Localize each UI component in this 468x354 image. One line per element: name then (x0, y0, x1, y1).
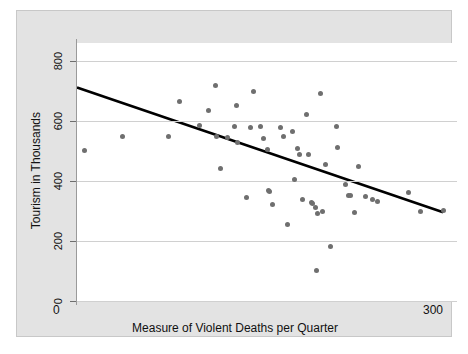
y-axis-tick-label: 400 (47, 164, 69, 198)
scatter-point (281, 134, 286, 139)
scatter-point (363, 194, 368, 199)
gridline (77, 241, 457, 242)
y-axis-tick-label-text: 0 (52, 298, 64, 304)
scatter-point (270, 202, 275, 207)
scatter-point (328, 244, 333, 249)
y-axis-tick (70, 241, 76, 242)
trendline (77, 43, 457, 301)
scatter-point (235, 140, 240, 145)
scatter-point (251, 89, 256, 94)
scatter-point (356, 164, 361, 169)
y-axis-tick-label-text: 600 (52, 112, 64, 130)
y-axis-tick-label-text: 200 (52, 232, 64, 250)
scatter-point (313, 205, 318, 210)
y-axis-title-text: Tourism in Thousands (29, 112, 43, 229)
gridline (77, 61, 457, 62)
scatter-point (306, 152, 311, 157)
scatter-point (213, 83, 218, 88)
x-axis-title-text: Measure of Violent Deaths per Quarter (132, 321, 338, 335)
scatter-point (278, 125, 283, 130)
y-axis-tick-label: 800 (47, 44, 69, 78)
x-axis-title: Measure of Violent Deaths per Quarter (17, 321, 453, 335)
y-axis-tick-label-text: 800 (52, 52, 64, 70)
scatter-point (418, 209, 423, 214)
scatter-point (177, 99, 182, 104)
scatter-point (375, 199, 380, 204)
scatter-point (370, 197, 375, 202)
scatter-point (218, 166, 223, 171)
scatter-point (225, 135, 230, 140)
chart-screenshot: Tourism in Thousands Measure of Violent … (0, 0, 468, 354)
scatter-point (314, 268, 319, 273)
gridline (77, 181, 457, 182)
scatter-point (232, 124, 237, 129)
scatter-point (285, 222, 290, 227)
scatter-point (334, 124, 339, 129)
scatter-point (320, 209, 325, 214)
scatter-point (304, 112, 309, 117)
gridline (77, 121, 457, 122)
scatter-point (335, 145, 340, 150)
scatter-point (267, 189, 272, 194)
scatter-point (265, 147, 270, 152)
y-axis-tick-label: 200 (47, 224, 69, 258)
x-axis-max-label: 300 (423, 303, 443, 317)
scatter-point (323, 162, 328, 167)
scatter-point (290, 129, 295, 134)
scatter-point (214, 134, 219, 139)
scatter-point (244, 195, 249, 200)
scatter-point (343, 182, 348, 187)
scatter-point (295, 146, 300, 151)
gridline (77, 301, 457, 302)
scatter-point (352, 210, 357, 215)
scatter-point (197, 123, 202, 128)
y-axis-tick-label: 0 (47, 284, 69, 318)
scatter-point (206, 108, 211, 113)
y-axis-tick (70, 181, 76, 182)
scatter-point (318, 91, 323, 96)
scatter-point (406, 190, 411, 195)
scatter-point (297, 152, 302, 157)
y-axis-spine (76, 39, 77, 305)
scatter-point (348, 193, 353, 198)
chart-panel: Tourism in Thousands Measure of Violent … (16, 10, 452, 337)
y-axis-title: Tourism in Thousands (26, 71, 46, 271)
scatter-point (441, 208, 446, 213)
scatter-point (258, 124, 263, 129)
y-axis-tick-label: 600 (47, 104, 69, 138)
scatter-point (248, 125, 253, 130)
scatter-point (166, 134, 171, 139)
scatter-point (261, 136, 266, 141)
y-axis-tick (70, 61, 76, 62)
y-axis-tick (70, 121, 76, 122)
y-axis-tick-label-text: 400 (52, 172, 64, 190)
plot-area (77, 43, 457, 301)
scatter-point (82, 148, 87, 153)
scatter-point (234, 103, 239, 108)
scatter-point (300, 197, 305, 202)
trendline-segment (77, 87, 443, 212)
scatter-point (120, 134, 125, 139)
y-axis-tick (70, 301, 76, 302)
